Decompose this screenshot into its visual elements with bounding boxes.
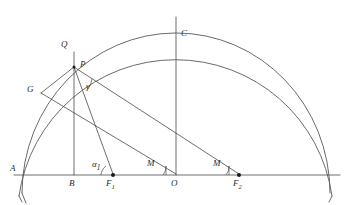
segment-P-G — [41, 67, 74, 93]
label-point-F2-sub: 2 — [239, 183, 242, 190]
label-point-A: A — [10, 164, 16, 173]
label-angle-gamma: γ — [86, 82, 90, 91]
geometry-diagram-canvas: A B C G P Q O F1 F2 α1 γ M M — [0, 0, 347, 205]
point-dot-F1 — [111, 173, 115, 177]
point-dot-F2 — [237, 173, 241, 177]
label-point-F1-sub: 1 — [112, 183, 115, 190]
label-angle-alpha1: α1 — [92, 160, 100, 171]
outer-arc-tail-right — [329, 196, 332, 202]
label-point-O: O — [171, 179, 178, 188]
label-angle-M-right: M — [213, 159, 221, 168]
label-angle-M-left: M — [147, 159, 155, 168]
label-point-Q: Q — [61, 40, 68, 49]
label-point-C: C — [181, 29, 187, 38]
geometry-svg — [0, 0, 347, 205]
angle-arc-alpha1 — [101, 166, 106, 175]
label-point-G: G — [27, 85, 34, 94]
outer-arc-tail-left — [19, 196, 22, 202]
label-angle-alpha-sub: 1 — [97, 163, 101, 172]
label-point-B: B — [69, 179, 75, 188]
label-point-P: P — [80, 60, 86, 69]
point-dot-P — [73, 66, 76, 69]
label-point-F2: F2 — [233, 179, 242, 190]
inner-arc-tail-left — [22, 193, 26, 203]
label-point-F1: F1 — [106, 179, 115, 190]
